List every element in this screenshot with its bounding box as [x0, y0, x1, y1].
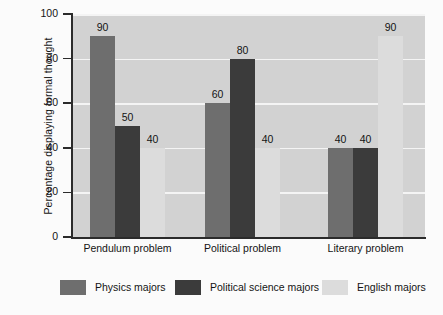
y-axis-tick — [63, 13, 72, 15]
bar — [353, 148, 378, 237]
bar-value-label: 50 — [115, 111, 140, 123]
legend-item: Political science majors — [175, 278, 319, 296]
y-axis-tick-label: 40 — [18, 141, 58, 153]
bar-value-label: 90 — [378, 21, 403, 33]
x-axis-line — [71, 237, 426, 239]
legend-label: Physics majors — [95, 281, 166, 293]
legend-item: English majors — [322, 278, 426, 296]
legend-label: English majors — [357, 281, 426, 293]
y-axis-tick — [63, 147, 72, 149]
legend-swatch — [322, 280, 348, 295]
bar-value-label: 80 — [230, 44, 255, 56]
gridline — [72, 14, 425, 16]
bar — [378, 36, 403, 237]
bar — [90, 36, 115, 237]
x-axis-label: Political problem — [173, 242, 313, 254]
y-axis-tick — [63, 236, 72, 238]
bar-value-label: 40 — [328, 133, 353, 145]
legend-item: Physics majors — [60, 278, 166, 296]
bar — [140, 148, 165, 237]
y-axis-title: Percentage displaying formal thought — [42, 6, 54, 246]
y-axis-tick-label: 0 — [18, 230, 58, 242]
y-axis-tick-label: 80 — [18, 52, 58, 64]
y-axis-tick — [63, 58, 72, 60]
y-axis-tick — [63, 102, 72, 104]
y-axis-line — [71, 13, 73, 238]
x-axis-label: Literary problem — [296, 242, 436, 254]
y-axis-tick-label: 60 — [18, 96, 58, 108]
legend-swatch — [175, 280, 201, 295]
bar-value-label: 40 — [255, 133, 280, 145]
legend-swatch — [60, 280, 86, 295]
bar-value-label: 40 — [353, 133, 378, 145]
legend-label: Political science majors — [210, 281, 319, 293]
y-axis-tick-label: 100 — [18, 7, 58, 19]
bar — [230, 59, 255, 237]
bar-value-label: 90 — [90, 21, 115, 33]
chart-legend: Physics majorsPolitical science majorsEn… — [0, 278, 443, 300]
y-axis-tick-label: 20 — [18, 185, 58, 197]
bar-chart-figure: Percentage displaying formal thought 020… — [0, 0, 443, 315]
bar — [255, 148, 280, 237]
bar — [115, 126, 140, 238]
bar — [328, 148, 353, 237]
bar — [205, 103, 230, 237]
bar-value-label: 40 — [140, 133, 165, 145]
y-axis-tick — [63, 192, 72, 194]
bar-value-label: 60 — [205, 88, 230, 100]
